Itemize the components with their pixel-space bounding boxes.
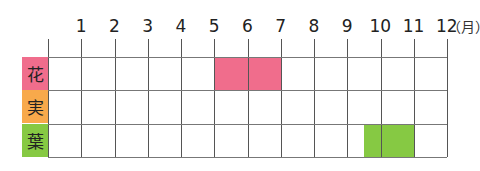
grid-vertical-line <box>447 39 448 157</box>
grid-horizontal-line <box>48 90 447 91</box>
seasonal-calendar-chart: 123456789101112（月）花実葉 <box>0 0 480 171</box>
month-label: 7 <box>264 16 297 36</box>
grid-horizontal-line <box>48 124 447 125</box>
row-label: 実 <box>22 90 48 123</box>
grid-horizontal-line <box>48 157 447 158</box>
grid-horizontal-line <box>48 57 447 58</box>
period-bar <box>364 124 414 157</box>
month-label: 9 <box>331 16 364 36</box>
row-label: 花 <box>22 57 48 90</box>
month-label: 1 <box>65 16 98 36</box>
unit-label: （月） <box>447 17 480 37</box>
row-label: 葉 <box>22 124 48 157</box>
month-label: 5 <box>198 16 231 36</box>
month-label: 2 <box>98 16 131 36</box>
month-label: 10 <box>364 16 397 36</box>
month-label: 3 <box>131 16 164 36</box>
month-label: 11 <box>397 16 430 36</box>
month-label: 4 <box>164 16 197 36</box>
month-label: 6 <box>231 16 264 36</box>
month-label: 8 <box>297 16 330 36</box>
